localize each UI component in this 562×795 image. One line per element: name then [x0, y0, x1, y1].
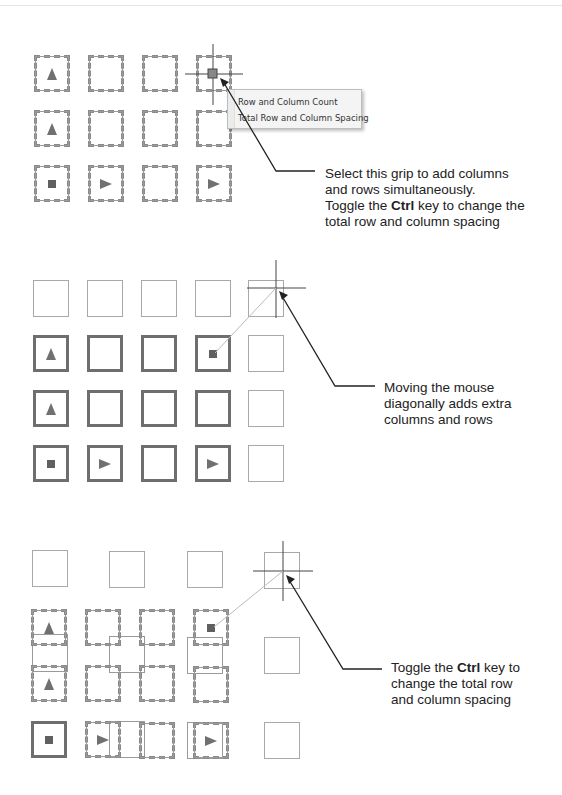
rubber-band-line [215, 288, 276, 353]
leader-line [289, 580, 382, 669]
leader-line [282, 296, 375, 386]
multifunction-grip-icon[interactable] [208, 69, 217, 78]
leader-arrow-icon [220, 78, 229, 87]
leader-arrow-icon [279, 291, 288, 300]
leader-arrow-icon [286, 575, 295, 584]
annotation-overlay [0, 0, 562, 795]
rubber-band-line [214, 571, 283, 627]
leader-line [224, 83, 315, 171]
